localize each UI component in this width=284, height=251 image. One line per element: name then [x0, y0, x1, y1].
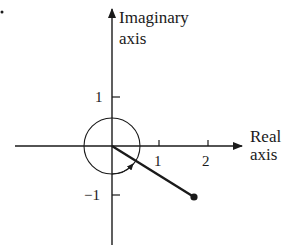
imaginary-axis-label-line2: axis [119, 29, 146, 48]
x-tick-label-1: 1 [154, 153, 162, 169]
complex-point [190, 193, 197, 200]
bullet-mark [1, 11, 4, 14]
real-axis-label-line2: axis [250, 145, 277, 164]
real-axis-label: Real axis [250, 127, 284, 164]
imaginary-axis-label-line1: Imaginary [119, 8, 189, 27]
x-tick-label-2: 2 [202, 153, 210, 169]
y-tick-label-neg1: −1 [84, 187, 100, 203]
complex-plane-diagram: 1 2 1 −1 Imaginary axis Real axis [0, 0, 284, 251]
angle-arrow-icon [112, 164, 133, 174]
imaginary-axis-label: Imaginary axis [119, 8, 193, 48]
real-axis-label-line1: Real [250, 127, 281, 146]
y-tick-label-1: 1 [95, 89, 103, 105]
